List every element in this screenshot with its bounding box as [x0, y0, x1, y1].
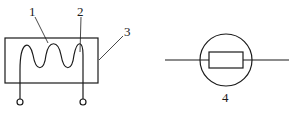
diagram-canvas: 1 2 3 4	[0, 0, 292, 114]
label-1: 1	[29, 4, 36, 19]
terminal-right-icon	[80, 99, 86, 105]
heater-element-diagram: 1 2 3	[5, 4, 131, 105]
label-2: 2	[77, 4, 84, 19]
leader-line-1	[35, 17, 48, 43]
heating-coil	[20, 44, 83, 70]
resistor-symbol-diagram: 4	[165, 34, 289, 105]
label-4: 4	[222, 90, 229, 105]
label-3: 3	[124, 24, 131, 39]
terminal-left-icon	[17, 99, 23, 105]
leader-line-3	[99, 36, 123, 60]
resistor-rectangle	[209, 52, 243, 68]
leader-line-2	[80, 17, 81, 52]
